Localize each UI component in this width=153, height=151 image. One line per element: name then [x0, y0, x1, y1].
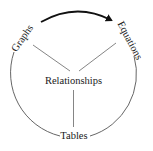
node-label-equations: Equations	[115, 19, 144, 61]
spoke-graphs	[33, 45, 70, 71]
node-label-graphs: Graphs	[9, 22, 35, 53]
spoke-equations	[79, 43, 116, 71]
relationships-diagram: Relationships Graphs Equations Tables	[0, 0, 153, 151]
circle-arc-left	[11, 52, 60, 136]
arrow-graphs-to-equations	[41, 11, 111, 22]
node-label-tables: Tables	[60, 130, 87, 141]
circle-arc-right	[90, 56, 136, 136]
center-label-relationships: Relationships	[45, 75, 102, 86]
